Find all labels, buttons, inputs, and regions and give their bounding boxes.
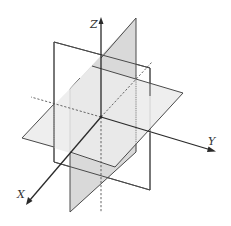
x-axis-label: X [16,188,26,201]
coordinate-planes-diagram: Z Y X [0,0,231,226]
origin-point [100,116,103,119]
z-axis-label: Z [89,18,98,31]
z-arrowhead-icon [99,17,104,24]
y-axis-label: Y [208,135,217,148]
xy-plane [22,66,183,167]
